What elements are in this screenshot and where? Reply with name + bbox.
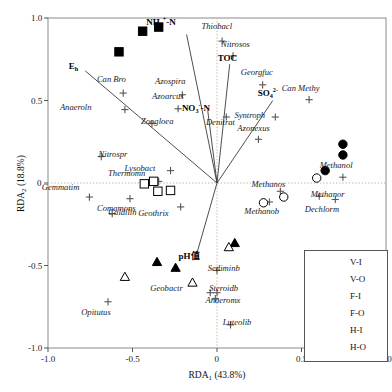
env-vector-label-toc: TOC — [218, 54, 237, 63]
y-tick-label: -1.0 — [28, 343, 42, 353]
species-marker — [255, 136, 262, 143]
species-label: Azonexus — [237, 124, 269, 133]
x-tick-label: 0 — [215, 354, 220, 364]
species-label: Luteolib — [223, 318, 252, 327]
species-label: Steroidb — [209, 284, 238, 293]
x-tick-label: -1.0 — [41, 354, 55, 364]
x-axis-title: RDA1 (43.8%) — [189, 370, 246, 382]
env-vector-ph — [197, 183, 217, 254]
species-label: Syntroph — [234, 111, 265, 120]
species-marker — [86, 193, 93, 200]
sample-marker-H-I — [171, 263, 180, 271]
species-label: Azospira — [155, 77, 186, 86]
env-vector-label-so4: SO42- — [258, 87, 278, 99]
species-label: Methanol — [320, 161, 353, 170]
species-label: Zoogloea — [141, 117, 173, 126]
species-marker — [120, 89, 127, 96]
sample-marker-F-I — [339, 151, 347, 159]
sample-marker-H-I — [230, 238, 239, 246]
legend-label-h-i: H-I — [350, 325, 363, 335]
legend-label-f-o: F-O — [350, 308, 365, 318]
legend-label-v-i: V-I — [350, 257, 362, 267]
species-label: Denitrat — [206, 118, 235, 127]
species-label: Methanos — [252, 180, 286, 189]
species-label: Georgfuc — [241, 68, 273, 77]
species-label: Anaeroln — [60, 103, 92, 112]
species-label: Nitrosos — [221, 40, 250, 49]
legend-label-v-o: V-O — [350, 274, 365, 284]
species-label: Methanob — [244, 207, 279, 216]
x-tick-label: -0.5 — [126, 354, 140, 364]
species-label: Geobactr — [150, 284, 182, 293]
species-marker — [104, 298, 111, 305]
y-axis-title: RDA2 (18.8%) — [16, 155, 28, 212]
species-marker — [126, 195, 133, 202]
species-label: Caldilin — [108, 208, 136, 217]
species-label: Anaeromx — [205, 296, 240, 305]
legend — [304, 250, 388, 362]
sample-marker-V-O — [166, 186, 174, 194]
species-label: Thermomn — [108, 169, 145, 178]
species-label: Azoarcus — [152, 92, 184, 101]
env-vector-label-nh4-n: NH4+-N — [146, 16, 176, 28]
env-vector-label-ph: pH值 — [179, 252, 200, 261]
species-label: Sediminb — [208, 264, 240, 273]
y-tick-label: 0.5 — [31, 96, 42, 106]
species-marker — [175, 105, 182, 112]
env-vector-label-no3-n: NO3--N — [182, 102, 210, 114]
species-label: Nitrospr — [99, 150, 128, 159]
env-vector-label-eh: Eh — [69, 62, 78, 72]
sample-marker-F-O — [280, 193, 288, 201]
species-marker — [177, 203, 184, 210]
species-label: Methanor — [311, 190, 345, 199]
species-label: Gemmatim — [42, 183, 80, 192]
sample-marker-F-I — [339, 140, 347, 148]
legend-label-f-i: F-I — [350, 291, 361, 301]
species-label: Can Methy — [282, 84, 320, 93]
sample-marker-H-O — [188, 278, 197, 286]
sample-marker-V-I — [115, 48, 123, 56]
y-tick-label: 1.0 — [31, 13, 42, 23]
legend-label-h-o: H-O — [350, 342, 366, 352]
y-tick-label: -0.5 — [28, 261, 42, 271]
sample-marker-V-O — [154, 187, 162, 195]
species-marker — [306, 96, 313, 103]
species-marker — [167, 167, 174, 174]
species-marker — [272, 113, 279, 120]
species-label: Can Bro — [97, 75, 126, 84]
sample-marker-H-I — [152, 257, 161, 265]
species-label: Dechlorm — [305, 205, 339, 214]
species-label: Opitutus — [81, 308, 111, 317]
sample-marker-H-O — [120, 272, 129, 280]
species-label: Thiobacl — [202, 22, 233, 31]
sample-marker-V-O — [140, 180, 148, 188]
sample-marker-V-O — [149, 177, 157, 185]
sample-marker-F-O — [313, 174, 321, 182]
species-marker — [339, 174, 346, 181]
rda-ordination-figure: -1.0-0.500.51.01.00.50-0.5-1.0RDA1 (43.8… — [0, 0, 392, 392]
species-label: Geothrix — [138, 209, 169, 218]
